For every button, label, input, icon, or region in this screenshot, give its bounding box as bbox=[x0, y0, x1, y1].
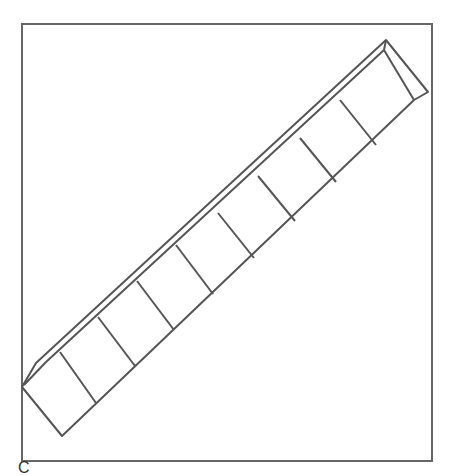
segment-divider bbox=[176, 245, 213, 294]
segment-divider bbox=[137, 281, 174, 330]
prism bbox=[22, 40, 428, 436]
prism-outline bbox=[22, 40, 428, 436]
figure-caption: C bbox=[18, 460, 30, 476]
segment-divider bbox=[258, 176, 295, 221]
segment-divider bbox=[300, 138, 336, 182]
segment-divider bbox=[98, 317, 135, 366]
segment-divider bbox=[60, 352, 96, 403]
segment-divider bbox=[218, 213, 254, 258]
prism-top-edge bbox=[24, 50, 384, 385]
frame-border bbox=[22, 24, 432, 461]
segment-divider bbox=[340, 100, 376, 145]
